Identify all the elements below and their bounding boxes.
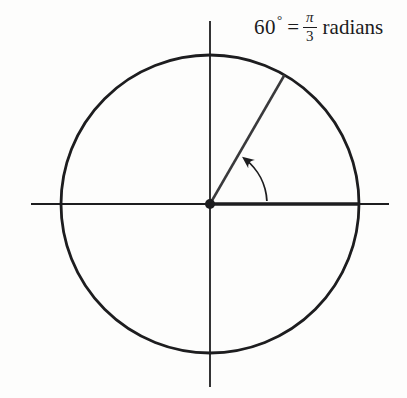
radians-fraction: π3 — [303, 10, 317, 45]
figure-canvas: 60°=π3radians — [0, 0, 407, 398]
terminal-side — [210, 75, 285, 204]
degree-symbol: ° — [277, 13, 282, 26]
center-dot — [205, 199, 215, 209]
fraction-numerator: π — [303, 10, 317, 28]
angle-degrees-value: 60 — [254, 15, 276, 39]
angle-arc-arrow — [245, 159, 267, 201]
angle-label: 60°=π3radians — [254, 10, 383, 48]
radians-unit: radians — [323, 15, 384, 39]
equals-sign: = — [287, 15, 299, 39]
fraction-denominator: 3 — [303, 28, 317, 45]
angle-diagram — [0, 0, 407, 398]
